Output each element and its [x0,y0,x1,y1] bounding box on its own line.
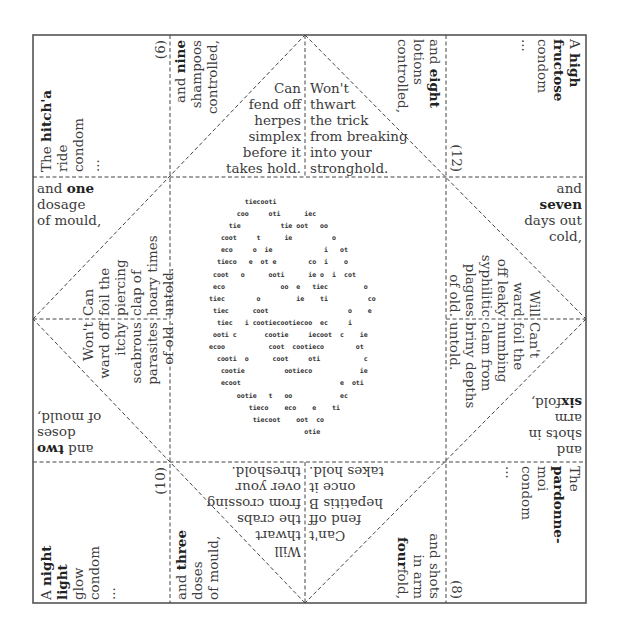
fortune-line: before it [220,144,301,160]
count-two: and two doses of mould, [37,410,147,458]
fortune-line: once it [309,480,409,496]
ascii-line: eco oo e tiec o [205,281,415,293]
count-text: arm [470,411,582,427]
count-text: fold, [531,395,561,411]
number-label: (6) [152,40,168,59]
count-bold-text: two [37,442,64,458]
ascii-line: ooti c cootie iecoot c ie [205,329,415,341]
number-label: (10) [152,467,168,495]
count-text: and [64,442,94,458]
corner-text: ... [86,40,102,172]
ascii-line: coo oti iec [205,208,415,220]
fortune-line: syphilitic [479,217,495,317]
fortune-line: takes hold. [309,464,409,480]
ascii-line: cooti o coot oti c [205,353,415,365]
count-text: lotions [411,39,427,171]
fortune-line: untold. [160,216,176,316]
fortune-line: clap of [128,216,144,316]
ascii-line: cootie ootieco ie [205,365,415,377]
ascii-line: tie tie oot oo [205,220,415,232]
number-label: (8) [449,580,465,599]
fortune-line: fend off [309,512,409,528]
count-bold-text: nine [172,40,188,73]
count-text: dosage [37,196,101,212]
count-text: and [173,570,189,600]
corner-text: ... [503,466,519,599]
ascii-line: ecoo coot cootieco ot [205,341,415,353]
count-text: doses [37,426,147,442]
fortune-top-left: Can fend off herpes simplex before it ta… [220,80,301,176]
corner-bold-text: pardonne- [551,466,567,544]
fortune-right-top: Will ward off leaky syphilitic plagues o… [447,217,543,317]
corner-top-left-label: The hitch'a ride condom ... [38,40,102,172]
count-text: and shots [427,466,443,599]
fortune-line: plagues [463,217,479,317]
ascii-line: tieco e ot e co i o [205,256,415,268]
corner-text: condom [519,466,535,599]
count-text: in arm [411,466,427,599]
fortune-line: Will [200,544,301,560]
fortune-line: foil the [96,216,112,316]
fortune-line: ward [511,217,527,317]
corner-text: glow [70,466,86,600]
ascii-line: coot o ooti ie o i cot [205,269,415,281]
count-text: and [37,180,67,196]
fortune-left-bottom: Won't ward off itchy scabrous parasites … [80,322,176,422]
count-eight: and eight lotions controlled, [395,39,443,171]
fortune-line: threshold. [200,464,301,480]
fortune-line: hoary times [144,216,160,316]
fortune-line: ward off [96,322,112,422]
ascii-line: tiecoot oot co [205,414,415,426]
corner-text: moi [535,466,551,599]
count-text: shampoos [188,40,204,172]
corner-text: ... [102,466,118,600]
fortune-line: takes hold. [220,160,301,176]
fortune-line: Can [220,80,301,96]
corner-bold-text: night [38,546,54,586]
fortune-line: of old. [160,322,176,422]
fortune-line: Can't [309,528,409,544]
fortune-bottom-right: Can't fend off hepatitis B once it takes… [309,464,409,544]
center-ascii-art: tiecooti coo oti iec tie tie oot oo coot… [205,196,415,438]
corner-top-right-label: A high fructose condom ... [519,39,583,171]
count-bold-text: three [173,530,189,570]
corner-bottom-right-label: The pardonne- moi condom ... [503,466,583,599]
corner-bold-text: fructose [551,39,567,101]
count-text: shots in [470,427,582,443]
ascii-line: tiec i cootiecootiecoo ec i [205,317,415,329]
fortune-left-top: Can foil the piercing clap of hoary time… [80,216,176,316]
fortune-line: over your [200,480,301,496]
count-text: controlled, [204,40,220,172]
fortune-line: fend off [220,96,301,112]
ascii-line: coot t ie o [205,232,415,244]
ascii-line: tieco eco e ti [205,402,415,414]
number-6: (6) [152,40,168,172]
count-text: and [172,73,188,103]
corner-bold-text: hitch'a [38,90,54,142]
fortune-line: thwart [200,528,301,544]
count-bold-text: eight [427,69,443,108]
corner-text: condom [535,39,551,171]
fortune-line: itchy [112,322,128,422]
corner-text: ride [54,40,70,172]
ascii-line: ootie t oo ec [205,390,415,402]
ascii-line: tiecooti [205,196,415,208]
ascii-line: ecoot e oti [205,377,415,389]
fortune-line: simplex [220,128,301,144]
corner-text: The [38,142,54,172]
number-8: (8) [449,466,465,599]
count-text: fold, [395,569,411,599]
count-six: and shots in arm sixfold, [470,395,582,459]
corner-bold-text: light [54,564,70,600]
number-label: (12) [449,144,465,172]
count-bold-text: one [67,180,94,196]
number-12: (12) [449,39,465,172]
fortune-line: untold. [447,322,463,422]
ascii-line: tiec o ie ti co [205,293,415,305]
fortune-line: the crabs [200,512,301,528]
fortune-line: scabrous [128,322,144,422]
fortune-line: off leaky [495,217,511,317]
count-bold-text: seven [540,196,582,212]
fortune-line: parasites [144,322,160,422]
corner-text: A [567,39,583,53]
